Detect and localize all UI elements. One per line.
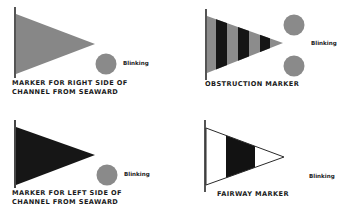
right-side-light-icon (96, 54, 117, 75)
right-side-marker-label: MARKER FOR RIGHT SIDE OF CHANNEL FROM SE… (12, 79, 112, 97)
obstruction-light-bottom-icon (284, 56, 305, 77)
right-side-marker-flag (15, 7, 95, 78)
label-line-1: MARKER FOR RIGHT SIDE OF (12, 79, 112, 88)
left-side-light-icon (97, 165, 118, 186)
right-side-blinking-text: Blinking (123, 60, 149, 66)
markers-diagram (0, 0, 343, 209)
label-line-1: MARKER FOR LEFT SIDE OF (12, 189, 112, 198)
left-side-blinking-text: Blinking (124, 171, 150, 177)
fairway-marker-label: FAIRWAY MARKER (217, 190, 289, 199)
label-line-2: CHANNEL FROM SEAWARD (12, 88, 112, 97)
obstruction-light-top-icon (284, 15, 305, 36)
left-side-marker-label: MARKER FOR LEFT SIDE OF CHANNEL FROM SEA… (12, 189, 112, 207)
label-line-1: OBSTRUCTION MARKER (205, 80, 299, 89)
label-line-2: CHANNEL FROM SEAWARD (12, 198, 112, 207)
obstruction-marker-label: OBSTRUCTION MARKER (205, 80, 299, 89)
label-line-1: FAIRWAY MARKER (217, 190, 289, 199)
left-side-marker-flag (15, 120, 95, 188)
obstruction-marker-flag (206, 9, 283, 80)
fairway-blinking-text: Blinking (309, 173, 335, 179)
obstruction-blinking-text: Blinking (311, 40, 337, 46)
fairway-marker-flag (205, 120, 284, 192)
